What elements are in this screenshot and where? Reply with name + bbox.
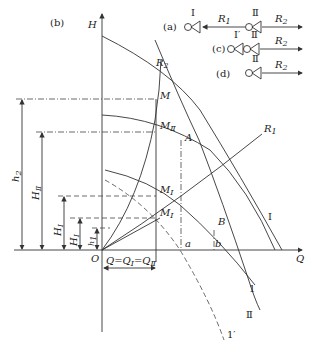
system-curve-R2 bbox=[102, 60, 161, 250]
label-curve-1: 1 bbox=[249, 283, 255, 294]
svg-text:R2: R2 bbox=[274, 35, 288, 48]
point-A: A bbox=[184, 132, 192, 143]
svg-text:Ⅰ: Ⅰ bbox=[191, 7, 195, 18]
point-MI-prime: MⅠ bbox=[159, 207, 174, 220]
label-R1: R1 bbox=[263, 123, 277, 136]
svg-text:R2: R2 bbox=[274, 59, 288, 72]
label-curve-II: Ⅱ bbox=[246, 309, 253, 320]
label-HII: HⅡ bbox=[30, 185, 43, 201]
h-axis-label: H bbox=[87, 19, 97, 30]
svg-text:Ⅰ′: Ⅰ′ bbox=[234, 29, 241, 40]
panel-b-label: (b) bbox=[50, 17, 64, 28]
label-curve-I: Ⅰ bbox=[268, 211, 272, 222]
svg-text:(c): (c) bbox=[212, 43, 226, 54]
schematic-c: (c) Ⅰ′ Ⅱ R2 bbox=[212, 29, 302, 55]
origin-label: O bbox=[91, 253, 99, 264]
label-R2: R2 bbox=[155, 57, 169, 70]
pump-I-prime-body-icon bbox=[234, 43, 243, 55]
svg-text:h2: h2 bbox=[10, 170, 23, 182]
svg-text:R2: R2 bbox=[274, 13, 288, 26]
curve-steep-II bbox=[155, 40, 260, 310]
svg-text:(a): (a) bbox=[163, 21, 177, 32]
flow-label: Q=QⅠ=QⅡ bbox=[106, 255, 157, 268]
label-HI: HⅠ bbox=[52, 223, 65, 237]
schematic-a: (a) Ⅰ R1 Ⅱ R2 bbox=[163, 7, 302, 33]
q-axis-label: Q bbox=[296, 253, 304, 264]
svg-text:h1: h1 bbox=[87, 236, 98, 246]
point-MII: MⅡ bbox=[159, 120, 176, 133]
point-b: b bbox=[215, 238, 221, 249]
svg-text:Ⅱ: Ⅱ bbox=[252, 7, 259, 18]
label-a-R1: R1 bbox=[217, 13, 231, 26]
label-curve-1-prime: 1′ bbox=[227, 329, 236, 340]
svg-text:Ⅱ: Ⅱ bbox=[252, 53, 259, 64]
point-B: B bbox=[217, 216, 225, 227]
svg-text:HⅡ: HⅡ bbox=[30, 185, 43, 201]
svg-text:Ⅱ: Ⅱ bbox=[251, 29, 258, 40]
label-h1: h1 bbox=[87, 236, 98, 246]
pump-II-body-icon bbox=[252, 67, 261, 79]
svg-text:HⅠ: HⅠ bbox=[68, 233, 81, 247]
point-M: M bbox=[159, 90, 171, 101]
pump-I-body-icon bbox=[191, 21, 200, 33]
pump-curve-diagram: (b) H Q O M MⅡ A MⅠ MⅠ B a b R2 R1 Ⅰ Ⅱ 1… bbox=[0, 0, 312, 353]
svg-text:(d): (d) bbox=[216, 68, 230, 79]
svg-text:HⅠ: HⅠ bbox=[52, 223, 65, 237]
system-curve-R1 bbox=[102, 134, 262, 250]
label-HI-prime: HⅠ bbox=[68, 233, 81, 247]
schematic-d: (d) Ⅱ R2 bbox=[216, 53, 302, 79]
label-h2: h2 bbox=[10, 170, 23, 182]
point-a: a bbox=[185, 238, 191, 249]
line-o-to-mi-prime bbox=[102, 218, 160, 250]
